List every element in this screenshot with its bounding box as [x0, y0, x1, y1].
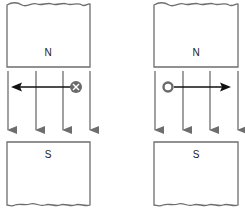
- north-magnet-left: N: [7, 3, 90, 67]
- current-out-of-page-icon: [164, 83, 173, 92]
- south-magnet-right: S: [154, 142, 238, 206]
- north-label-right: N: [192, 47, 199, 58]
- north-magnet-right: N: [154, 3, 238, 67]
- current-into-page-icon: [70, 81, 82, 93]
- field-lines-right: [155, 71, 238, 130]
- magnetic-force-diagram: N S N: [0, 0, 245, 216]
- south-label-left: S: [45, 149, 52, 160]
- field-lines-left: [8, 71, 90, 130]
- left-diagram: N S: [7, 3, 90, 206]
- south-label-right: S: [193, 149, 200, 160]
- south-magnet-left: S: [7, 142, 90, 206]
- right-diagram: N S: [154, 3, 238, 206]
- north-label-left: N: [44, 47, 51, 58]
